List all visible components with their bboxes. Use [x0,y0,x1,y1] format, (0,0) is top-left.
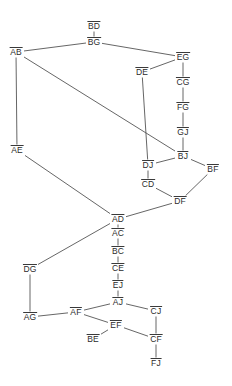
graph-node-bf[interactable]: BF [207,164,219,174]
graph-node-label: AB [10,47,23,57]
graph-edge [156,188,172,197]
graph-edge [142,78,147,160]
graph-edge [191,159,205,165]
graph-edge [126,203,172,216]
graph-edge [156,158,175,163]
graph-node-df[interactable]: DF [174,196,187,206]
graph-canvas: BDBGABEGDECGFGGJAEBJDJBFCDDFADACBCCEDGEJ… [0,0,232,386]
graph-edge [186,175,208,196]
graph-edge [126,304,148,309]
graph-edge [124,328,148,336]
graph-edge [38,313,68,316]
graph-node-label: BD [87,21,100,31]
graph-node-label: BC [111,246,124,256]
graph-node-label: AE [11,145,24,155]
graph-node-label: CD [141,179,155,189]
graph-node-de[interactable]: DE [135,67,148,77]
graph-node-ae[interactable]: AE [11,145,24,155]
graph-node-ab[interactable]: AB [10,47,23,57]
graph-node-label: CF [150,334,163,344]
graph-node-label: DJ [142,160,154,170]
graph-node-aj[interactable]: AJ [112,297,123,307]
graph-node-label: AC [111,228,124,238]
graph-node-eg[interactable]: EG [176,52,190,62]
graph-edge [25,155,110,213]
graph-node-label: EG [176,52,190,62]
graph-edge [101,330,108,334]
graph-edge [24,57,175,151]
graph-edge [24,43,86,51]
graph-node-label: BG [87,37,101,47]
graph-node-cg[interactable]: CG [176,77,190,87]
graph-node-label: DF [174,196,187,206]
graph-node-label: BF [207,164,219,174]
graph-edge [84,304,110,310]
graph-node-label: FJ [151,358,162,368]
graph-edge [38,224,110,265]
graph-node-cf[interactable]: CF [150,334,163,344]
graph-node-label: DE [135,67,148,77]
graph-node-ef[interactable]: EF [110,320,122,330]
graph-node-label: AG [23,312,37,322]
graph-node-ej[interactable]: EJ [112,280,123,290]
graph-edge [102,43,175,55]
graph-node-label: BJ [177,151,188,161]
graph-node-label: DG [23,264,37,274]
graph-node-label: CJ [150,306,162,316]
graph-node-label: FG [176,102,189,112]
graph-node-cj[interactable]: CJ [150,306,162,316]
graph-node-fj[interactable]: FJ [151,358,162,368]
graph-edge [16,58,17,145]
graph-node-label: AJ [112,297,123,307]
graph-node-cd[interactable]: CD [141,179,155,189]
graph-node-gj[interactable]: GJ [177,127,189,137]
graph-node-bd[interactable]: BD [87,21,100,31]
graph-node-fg[interactable]: FG [176,102,189,112]
graph-node-label: AD [111,214,124,224]
graph-node-be[interactable]: BE [87,334,100,344]
graph-node-ac[interactable]: AC [111,228,124,238]
graph-node-dj[interactable]: DJ [142,160,154,170]
graph-node-ag[interactable]: AG [23,312,37,322]
graph-node-dg[interactable]: DG [23,264,37,274]
graph-edge [150,60,175,69]
graph-node-label: EF [110,320,122,330]
graph-node-label: AF [70,307,82,317]
graph-node-label: CG [176,77,190,87]
graph-node-bc[interactable]: BC [111,246,124,256]
graph-node-label: BE [87,334,100,344]
graph-node-label: EJ [112,280,123,290]
graph-node-bg[interactable]: BG [87,37,101,47]
graph-node-ad[interactable]: AD [111,214,124,224]
graph-node-label: GJ [177,127,189,137]
graph-node-bj[interactable]: BJ [177,151,188,161]
graph-node-label: CE [111,263,124,273]
graph-edge [84,315,108,323]
graph-node-af[interactable]: AF [70,307,82,317]
graph-node-ce[interactable]: CE [111,263,124,273]
